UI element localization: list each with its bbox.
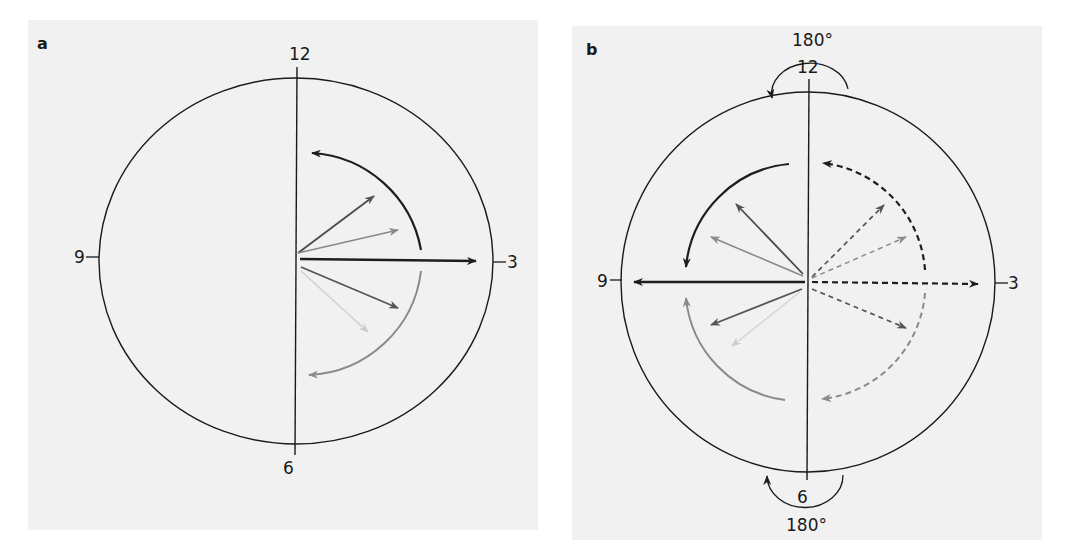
- label-12: 12: [797, 57, 819, 77]
- panel-b-diagram: b 180° 12 9 3 6 180°: [586, 30, 1019, 535]
- rotation-label-bottom: 180°: [786, 515, 827, 535]
- label-12: 12: [289, 44, 311, 64]
- arrow-upper-left-light: [711, 237, 803, 276]
- vertical-axis-line: [295, 67, 297, 455]
- arc-clockwise-lower: [309, 271, 421, 375]
- arrow-lower-faint: [301, 271, 368, 332]
- arc-right-upper-dashed: [823, 163, 925, 270]
- label-6: 6: [797, 487, 808, 507]
- arrow-3-oclock: [300, 259, 476, 261]
- arrow-lower-left-mid: [711, 289, 802, 325]
- arrow-lower-mid: [301, 267, 398, 308]
- label-3: 3: [507, 252, 518, 272]
- arrow-lower-right-dashed: [812, 289, 906, 328]
- panel-a-letter: a: [37, 34, 48, 53]
- label-9: 9: [597, 271, 608, 291]
- arrow-upper-right-dashed-dark: [812, 205, 884, 277]
- arrow-upper-right-dashed-light: [812, 237, 906, 278]
- rotation-label-top: 180°: [792, 30, 833, 50]
- panel-a-diagram: a 12 9 3 6: [37, 34, 518, 478]
- arrow-lower-left-faint: [732, 292, 800, 346]
- arrow-3-oclock-dashed: [812, 282, 978, 284]
- arrow-upper-left-dark: [736, 204, 803, 274]
- arc-left-upper: [686, 164, 789, 267]
- label-6: 6: [283, 458, 294, 478]
- arc-left-lower: [686, 298, 785, 400]
- label-3: 3: [1008, 273, 1019, 293]
- arc-right-lower-dashed: [822, 293, 925, 399]
- diagram-canvas: a 12 9 3 6 b 180° 12 9 3 6 180°: [0, 0, 1069, 557]
- label-9: 9: [74, 247, 85, 267]
- vertical-axis-line: [807, 79, 809, 480]
- panel-b-letter: b: [586, 40, 597, 59]
